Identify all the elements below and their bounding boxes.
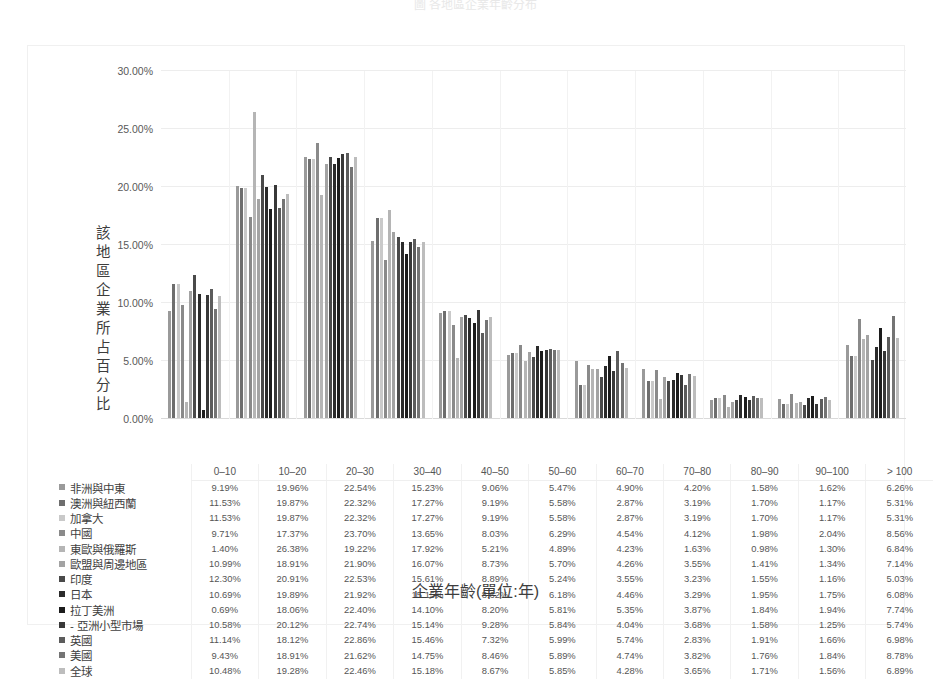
- legend-swatch-icon: [59, 500, 65, 506]
- table-cell-value: 5.89%: [529, 648, 596, 663]
- table-cell-value: 8.67%: [461, 664, 528, 679]
- bar: [274, 185, 277, 418]
- legend-item[interactable]: 澳洲與紐西蘭: [55, 496, 191, 511]
- table-cell-value: 20.12%: [259, 618, 327, 633]
- table-cell-value: 3.55%: [664, 557, 731, 572]
- table-cell-value: 15.14%: [394, 618, 462, 633]
- bar: [413, 239, 416, 418]
- bar: [735, 400, 738, 418]
- table-cell-value: 7.32%: [461, 633, 528, 648]
- table-row: 全球10.48%19.28%22.46%15.18%8.67%5.85%4.28…: [55, 664, 933, 679]
- bar: [218, 296, 221, 418]
- table-cell-value: 5.47%: [529, 481, 596, 496]
- legend-item[interactable]: 拉丁美洲: [55, 603, 191, 618]
- table-cell-value: 5.58%: [529, 511, 596, 526]
- table-cell-value: 2.83%: [664, 633, 731, 648]
- table-cell-value: 4.28%: [596, 664, 663, 679]
- bar: [193, 275, 196, 418]
- bar: [608, 356, 611, 418]
- bar: [756, 398, 759, 418]
- bar: [871, 360, 874, 418]
- table-cell-value: 15.23%: [394, 481, 462, 496]
- bar: [439, 313, 442, 418]
- bar-group: [432, 71, 500, 418]
- bar: [511, 353, 514, 418]
- table-cell-value: 1.25%: [798, 618, 866, 633]
- table-cell-value: 3.82%: [664, 648, 731, 663]
- bar: [820, 399, 823, 418]
- table-cell-value: 1.58%: [731, 481, 798, 496]
- legend-swatch-icon: [59, 622, 65, 628]
- bar: [693, 376, 696, 418]
- legend-item[interactable]: 歐盟與周邊地區: [55, 557, 191, 572]
- legend-item[interactable]: 英國: [55, 633, 191, 648]
- bar: [448, 311, 451, 418]
- bar: [325, 164, 328, 418]
- bar: [625, 368, 628, 418]
- table-cell-value: 21.62%: [326, 648, 394, 663]
- table-row: 英國11.14%18.12%22.86%15.46%7.32%5.99%5.74…: [55, 633, 933, 648]
- legend-item[interactable]: 美國: [55, 648, 191, 663]
- legend-item[interactable]: 加拿大: [55, 511, 191, 526]
- table-cell-value: 5.84%: [529, 618, 596, 633]
- bar: [172, 284, 175, 418]
- table-cell-value: 6.89%: [866, 664, 933, 679]
- bar: [655, 370, 658, 418]
- table-cell-value: 22.32%: [326, 496, 394, 511]
- bar: [752, 396, 755, 418]
- bar: [456, 358, 459, 418]
- column-header: 40–50: [461, 464, 528, 481]
- table-cell-value: 8.46%: [461, 648, 528, 663]
- legend-swatch-icon: [59, 668, 65, 674]
- bar: [371, 241, 374, 418]
- bar: [308, 159, 311, 418]
- bar: [350, 167, 353, 418]
- legend-item[interactable]: 全球: [55, 664, 191, 679]
- table-cell-value: 18.91%: [259, 648, 327, 663]
- bar: [384, 260, 387, 418]
- table-cell-value: 22.32%: [326, 511, 394, 526]
- bar: [320, 195, 323, 418]
- bar-group: [838, 71, 906, 418]
- table-cell-value: 5.74%: [596, 633, 663, 648]
- bar: [828, 400, 831, 418]
- bar: [790, 394, 793, 418]
- table-cell-value: 8.78%: [866, 648, 933, 663]
- bar: [206, 295, 209, 418]
- table-cell-value: 15.18%: [394, 664, 462, 679]
- legend-item[interactable]: - 亞洲小型市場: [55, 618, 191, 633]
- bar: [583, 385, 586, 418]
- y-axis-tick-label: 10.00%: [33, 298, 153, 308]
- bar: [846, 345, 849, 418]
- bar: [659, 399, 662, 418]
- table-cell-value: 26.38%: [259, 542, 327, 557]
- table-cell-value: 19.87%: [259, 496, 327, 511]
- table-cell-value: 3.19%: [664, 511, 731, 526]
- table-cell-value: 21.90%: [326, 557, 394, 572]
- bar: [536, 346, 539, 418]
- axis-baseline: [161, 418, 906, 419]
- bar: [422, 242, 425, 418]
- legend-item[interactable]: 非洲與中東: [55, 481, 191, 496]
- table-cell-value: 3.19%: [664, 496, 731, 511]
- table-cell-value: 8.20%: [461, 603, 528, 618]
- table-cell-value: 23.70%: [326, 526, 394, 541]
- legend-item[interactable]: 中國: [55, 526, 191, 541]
- bar-group: [703, 71, 771, 418]
- table-cell-value: 22.40%: [326, 603, 394, 618]
- bar: [795, 403, 798, 418]
- bar: [485, 320, 488, 418]
- bar: [532, 357, 535, 418]
- table-cell-value: 15.46%: [394, 633, 462, 648]
- bar: [600, 377, 603, 418]
- y-axis-tick-label: 30.00%: [33, 66, 153, 76]
- table-row: 東歐與俄羅斯1.40%26.38%19.22%17.92%5.21%4.89%4…: [55, 542, 933, 557]
- bar: [778, 399, 781, 418]
- legend-item[interactable]: 東歐與俄羅斯: [55, 542, 191, 557]
- chart-frame: 該地區企業所占百分比 0.00%5.00%10.00%15.00%20.00%2…: [27, 45, 905, 625]
- bar: [397, 237, 400, 418]
- table-cell-value: 19.87%: [259, 511, 327, 526]
- data-table: 0–1010–2020–3030–4040–5050–6060–7070–808…: [55, 464, 933, 679]
- table-cell-value: 4.90%: [596, 481, 663, 496]
- bar: [236, 186, 239, 418]
